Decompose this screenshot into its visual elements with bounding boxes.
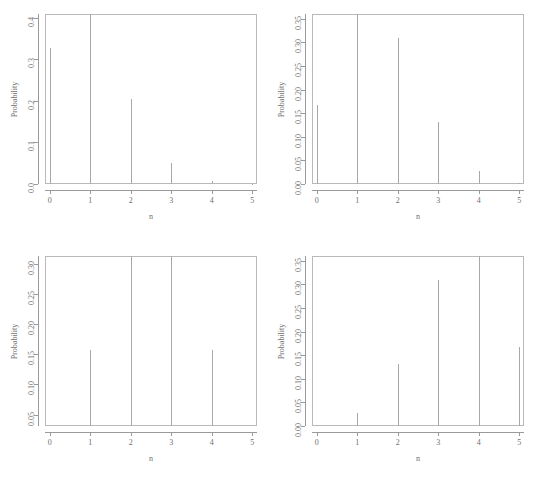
- x-axis-tick: [398, 190, 399, 194]
- y-axis-title: Probability: [277, 256, 287, 426]
- x-axis-tick: [50, 432, 51, 436]
- plot-area: [45, 256, 257, 426]
- x-axis-tick-label: 5: [517, 438, 521, 448]
- x-axis-tick: [519, 190, 520, 194]
- y-axis-tick-label: 0.20: [28, 321, 36, 335]
- y-axis-tick-label: 0.20: [295, 87, 303, 101]
- y-axis-tick-label: 0.10: [28, 381, 36, 395]
- x-axis-tick: [398, 432, 399, 436]
- x-axis-tick: [171, 432, 172, 436]
- y-axis-line: [38, 256, 39, 426]
- pmf-needle: [90, 350, 91, 426]
- x-axis-tick-label: 2: [129, 196, 133, 206]
- x-axis-tick: [212, 432, 213, 436]
- y-axis-title: Probability: [10, 14, 20, 184]
- y-axis-line: [38, 14, 39, 184]
- plot-panel-bottom-right: Probability0.000.050.100.150.200.250.300…: [267, 242, 534, 484]
- pmf-needle: [317, 425, 318, 426]
- x-axis-tick: [317, 190, 318, 194]
- pmf-needle: [519, 183, 520, 184]
- y-axis-tick-label: 0.35: [295, 16, 303, 30]
- x-axis-tick-label: 2: [396, 196, 400, 206]
- plot-area: [312, 256, 524, 426]
- pmf-needle: [398, 38, 399, 184]
- x-axis-tick-label: 3: [169, 196, 173, 206]
- pmf-needle: [171, 163, 172, 184]
- y-axis-tick-label: 0.30: [295, 281, 303, 295]
- pmf-needle: [357, 413, 358, 426]
- x-axis-tick: [131, 190, 132, 194]
- x-axis-tick: [90, 190, 91, 194]
- y-axis-tick-label: 0.2: [28, 100, 36, 110]
- x-axis-tick-label: 0: [48, 196, 52, 206]
- x-axis-title: n: [45, 212, 257, 221]
- y-axis-title-label: Probability: [278, 323, 287, 359]
- plot-area: [312, 14, 524, 184]
- plot-area: [45, 14, 257, 184]
- y-axis-tick-label: 0.25: [295, 63, 303, 77]
- plot-panel-top-left: Probability0.00.10.20.30.4012345n: [0, 0, 267, 242]
- y-axis-tick-label: 0.1: [28, 141, 36, 151]
- pmf-needle: [131, 256, 132, 426]
- pmf-needle: [479, 171, 480, 184]
- x-axis-tick-label: 4: [477, 196, 481, 206]
- x-axis-tick: [50, 190, 51, 194]
- y-axis-tick-label: 0.15: [295, 352, 303, 366]
- y-axis-tick-label: 0.30: [295, 39, 303, 53]
- x-axis-tick: [131, 432, 132, 436]
- y-axis-tick-label: 0.4: [28, 17, 36, 27]
- x-axis-tick-label: 0: [315, 438, 319, 448]
- y-axis-tick-label: 0.30: [28, 261, 36, 275]
- x-axis-tick: [438, 432, 439, 436]
- x-axis-tick-label: 1: [88, 438, 92, 448]
- x-axis-tick-label: 5: [517, 196, 521, 206]
- y-axis-title-label: Probability: [11, 81, 20, 117]
- x-axis-line: [45, 432, 257, 433]
- y-axis-title: Probability: [10, 256, 20, 426]
- x-axis-tick-label: 2: [396, 438, 400, 448]
- x-axis-tick: [479, 190, 480, 194]
- pmf-needle: [519, 347, 520, 426]
- x-axis-tick-label: 3: [436, 438, 440, 448]
- pmf-needle: [212, 181, 213, 184]
- x-axis-tick: [438, 190, 439, 194]
- y-axis-tick-label: 0.10: [295, 134, 303, 148]
- pmf-needle: [212, 350, 213, 426]
- pmf-needle: [131, 99, 132, 184]
- x-axis-tick: [519, 432, 520, 436]
- y-axis-tick-label: 0.00: [295, 423, 303, 437]
- y-axis-tick-label: 0.0: [28, 183, 36, 193]
- y-axis-tick-label: 0.15: [28, 351, 36, 365]
- pmf-needle: [317, 105, 318, 184]
- y-axis-tick-label: 0.05: [295, 399, 303, 413]
- y-axis-tick-label: 0.20: [295, 329, 303, 343]
- y-axis-line: [305, 256, 306, 426]
- y-axis-tick-label: 0.10: [295, 376, 303, 390]
- y-axis-tick-label: 0.15: [295, 110, 303, 124]
- x-axis-tick-label: 3: [169, 438, 173, 448]
- x-axis-line: [312, 432, 524, 433]
- y-axis-title: Probability: [277, 14, 287, 184]
- y-axis-tick-label: 0.05: [28, 412, 36, 426]
- y-axis-tick-label: 0.25: [295, 305, 303, 319]
- plot-panel-top-right: Probability0.000.050.100.150.200.250.300…: [267, 0, 534, 242]
- pmf-needle: [479, 256, 480, 426]
- x-axis-tick-label: 5: [250, 438, 254, 448]
- pmf-needle: [50, 48, 51, 184]
- y-axis-tick-label: 0.00: [295, 181, 303, 195]
- x-axis-tick: [90, 432, 91, 436]
- y-axis-line: [305, 14, 306, 184]
- x-axis-tick-label: 1: [355, 196, 359, 206]
- pmf-needle: [438, 122, 439, 184]
- x-axis-tick-label: 3: [436, 196, 440, 206]
- plot-panel-bottom-left: Probability0.050.100.150.200.250.3001234…: [0, 242, 267, 484]
- x-axis-tick-label: 4: [210, 438, 214, 448]
- y-axis-tick-label: 0.05: [295, 157, 303, 171]
- x-axis-title: n: [312, 454, 524, 463]
- x-axis-title: n: [312, 212, 524, 221]
- x-axis-line: [312, 190, 524, 191]
- pmf-needle: [171, 256, 172, 426]
- x-axis-tick: [479, 432, 480, 436]
- x-axis-tick-label: 4: [477, 438, 481, 448]
- x-axis-tick-label: 1: [88, 196, 92, 206]
